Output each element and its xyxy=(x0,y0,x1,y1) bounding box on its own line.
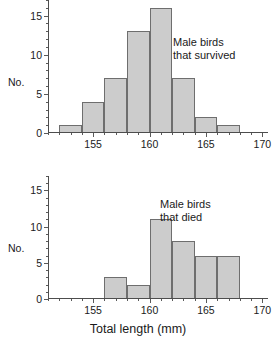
y-axis-minor-tick xyxy=(46,212,48,213)
plot-area-died: 155160165170051015 xyxy=(48,176,268,299)
y-axis-minor-tick xyxy=(46,23,48,24)
y-axis-minor-tick xyxy=(46,270,48,271)
x-axis-tick xyxy=(206,299,207,303)
x-axis-minor-tick xyxy=(217,299,218,301)
x-axis-minor-tick xyxy=(172,299,173,301)
histogram-bar xyxy=(217,256,240,299)
histogram-bar xyxy=(127,285,150,299)
y-axis-title-survived: No. xyxy=(8,76,24,88)
x-axis-tick xyxy=(262,133,263,137)
x-axis-minor-tick xyxy=(82,133,83,135)
y-axis-minor-tick xyxy=(46,70,48,71)
x-axis-minor-tick xyxy=(195,299,196,301)
y-axis-minor-tick xyxy=(46,292,48,293)
y-axis-tick xyxy=(44,227,48,228)
y-axis-minor-tick xyxy=(46,102,48,103)
x-axis-tick xyxy=(206,133,207,137)
bar-series-died xyxy=(48,176,268,299)
x-axis-minor-tick xyxy=(48,299,49,301)
x-axis-minor-tick xyxy=(104,133,105,135)
y-axis-line xyxy=(48,0,49,133)
y-axis-minor-tick xyxy=(46,183,48,184)
x-axis-minor-tick xyxy=(229,133,230,135)
x-axis-tick xyxy=(262,299,263,303)
y-axis-title-died: No. xyxy=(8,242,24,254)
x-axis-minor-tick xyxy=(251,133,252,135)
histogram-figure: 155160165170051015 No. Male birds that s… xyxy=(0,0,276,344)
histogram-bar xyxy=(172,78,195,133)
y-axis-tick-label: 0 xyxy=(36,127,42,139)
y-axis-tick-label: 15 xyxy=(30,184,42,196)
histogram-bar xyxy=(104,78,127,133)
x-axis-minor-tick xyxy=(127,299,128,301)
x-axis-tick-label: 155 xyxy=(84,138,102,150)
x-axis-tick-label: 155 xyxy=(84,304,102,316)
y-axis-tick xyxy=(44,190,48,191)
x-axis-minor-tick xyxy=(217,133,218,135)
histogram-bar xyxy=(172,241,195,299)
x-axis-tick-label: 165 xyxy=(197,304,215,316)
plot-area-survived: 155160165170051015 xyxy=(48,0,268,133)
x-axis-minor-tick xyxy=(48,133,49,135)
x-axis-minor-tick xyxy=(138,299,139,301)
y-axis-tick-label: 10 xyxy=(30,49,42,61)
x-axis-minor-tick xyxy=(229,299,230,301)
x-axis-tick-label: 160 xyxy=(141,138,159,150)
y-axis-tick-label: 0 xyxy=(36,293,42,305)
annotation-line-1: Male birds xyxy=(160,198,211,211)
x-axis-minor-tick xyxy=(71,133,72,135)
y-axis-minor-tick xyxy=(46,125,48,126)
annotation-line-1: Male birds xyxy=(173,36,235,49)
annotation-line-2: that died xyxy=(160,211,211,224)
annotation-survived: Male birds that survived xyxy=(173,36,235,62)
x-axis-title: Total length (mm) xyxy=(0,322,276,336)
y-axis-line xyxy=(48,176,49,299)
bar-series-survived xyxy=(48,0,268,133)
histogram-bar xyxy=(104,277,127,299)
y-axis-tick xyxy=(44,55,48,56)
x-axis-minor-tick xyxy=(183,133,184,135)
histogram-bar xyxy=(127,31,150,133)
y-axis-tick xyxy=(44,263,48,264)
histogram-bar xyxy=(82,102,105,133)
y-axis-minor-tick xyxy=(46,0,48,1)
x-axis-minor-tick xyxy=(195,133,196,135)
y-axis-tick-label: 10 xyxy=(30,221,42,233)
chart-panel-survived: 155160165170051015 No. Male birds that s… xyxy=(0,0,276,168)
x-axis-minor-tick xyxy=(183,299,184,301)
y-axis-minor-tick xyxy=(46,248,48,249)
y-axis-minor-tick xyxy=(46,198,48,199)
x-axis-minor-tick xyxy=(251,299,252,301)
y-axis-minor-tick xyxy=(46,31,48,32)
histogram-bar xyxy=(195,117,218,133)
y-axis-minor-tick xyxy=(46,241,48,242)
y-axis-minor-tick xyxy=(46,285,48,286)
x-axis-tick-label: 170 xyxy=(254,138,272,150)
y-axis-tick xyxy=(44,16,48,17)
histogram-bar xyxy=(150,8,173,133)
y-axis-minor-tick xyxy=(46,47,48,48)
y-axis-tick-label: 15 xyxy=(30,10,42,22)
y-axis-tick-label: 5 xyxy=(36,88,42,100)
y-axis-minor-tick xyxy=(46,117,48,118)
y-axis-minor-tick xyxy=(46,63,48,64)
chart-panel-died: 155160165170051015 No. Male birds that d… xyxy=(0,176,276,326)
x-axis-tick xyxy=(93,133,94,137)
y-axis-minor-tick xyxy=(46,219,48,220)
x-axis-minor-tick xyxy=(161,299,162,301)
x-axis-tick xyxy=(150,133,151,137)
y-axis-minor-tick xyxy=(46,110,48,111)
x-axis-tick xyxy=(150,299,151,303)
y-axis-tick xyxy=(44,94,48,95)
x-axis-tick-label: 165 xyxy=(197,138,215,150)
y-axis-minor-tick xyxy=(46,176,48,177)
y-axis-tick xyxy=(44,133,48,134)
x-axis-minor-tick xyxy=(59,133,60,135)
x-axis-minor-tick xyxy=(240,133,241,135)
x-axis-tick-label: 160 xyxy=(141,304,159,316)
annotation-line-2: that survived xyxy=(173,49,235,62)
x-axis-minor-tick xyxy=(59,299,60,301)
y-axis-tick xyxy=(44,299,48,300)
x-axis-minor-tick xyxy=(138,133,139,135)
x-axis-minor-tick xyxy=(104,299,105,301)
